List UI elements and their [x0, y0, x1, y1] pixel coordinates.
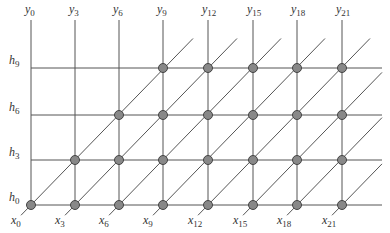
- lattice-node: [249, 156, 258, 165]
- lattice-node: [159, 64, 168, 73]
- lattice-node: [338, 201, 347, 210]
- lattice-node: [159, 111, 168, 120]
- column-top-label: y12: [202, 3, 216, 18]
- row-label: h3: [9, 146, 20, 161]
- lattice-node: [159, 201, 168, 210]
- diagonal-line: [21, 38, 193, 215]
- lattice-node: [27, 201, 36, 210]
- lattice-node: [159, 156, 168, 165]
- column-bottom-label: x3: [55, 214, 65, 229]
- diagonal-line: [287, 118, 382, 216]
- lattice-node: [115, 156, 124, 165]
- row-label: h9: [9, 54, 20, 69]
- column-bottom-label: x12: [188, 214, 202, 229]
- column-top-label: y6: [113, 3, 123, 18]
- column-top-label: y0: [25, 3, 35, 18]
- column-bottom-label: x21: [322, 214, 336, 229]
- column-top-label: y3: [69, 3, 79, 18]
- lattice-node: [338, 111, 347, 120]
- row-label: h0: [9, 191, 20, 206]
- horizontal-lines: [31, 68, 382, 205]
- lattice-node: [293, 201, 302, 210]
- lattice-node: [293, 64, 302, 73]
- lattice-node: [338, 156, 347, 165]
- lattice-node: [204, 201, 213, 210]
- lattice-node: [249, 201, 258, 210]
- column-top-label: y9: [157, 3, 167, 18]
- lattice-node: [204, 111, 213, 120]
- column-bottom-label: x18: [277, 214, 291, 229]
- diagonal-line: [243, 72, 382, 215]
- column-bottom-label: x15: [233, 214, 247, 229]
- lattice-node: [338, 64, 347, 73]
- lattice-node: [71, 201, 80, 210]
- lattice-node: [249, 111, 258, 120]
- lattice-node: [249, 64, 258, 73]
- column-bottom-label: x9: [143, 214, 153, 229]
- column-top-label: y21: [336, 3, 350, 18]
- column-top-label: y15: [247, 3, 261, 18]
- lattice-node: [71, 156, 80, 165]
- row-label: h6: [9, 101, 20, 116]
- lattice-diagram: [0, 0, 390, 233]
- lattice-node: [204, 156, 213, 165]
- column-bottom-label: x6: [99, 214, 109, 229]
- lattice-node: [293, 156, 302, 165]
- lattice-node: [293, 111, 302, 120]
- column-top-label: y18: [291, 3, 305, 18]
- lattice-node: [115, 111, 124, 120]
- lattice-node: [204, 64, 213, 73]
- lattice-node: [115, 201, 124, 210]
- column-bottom-label: x0: [11, 214, 21, 229]
